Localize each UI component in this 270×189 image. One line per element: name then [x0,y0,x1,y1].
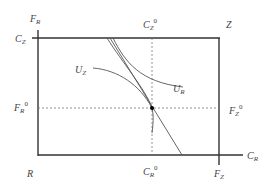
label-f-z-zero: FZ0 [228,103,243,118]
label-sub: Z [220,173,224,181]
budget-line [110,38,182,155]
label-f-z-axis: FZ [213,168,224,181]
label-c-r-axis: CR [247,150,259,163]
label-c-r-zero: CR0 [143,164,158,179]
label-sup: 0 [154,17,158,25]
label-sup: 0 [24,100,28,108]
label-sub: R [35,18,41,26]
label-r-origin: R [26,168,33,179]
label-c-z-axis: CZ [15,33,26,46]
label-sub: Z [150,24,154,32]
label-sub: R [19,107,25,115]
label-z-origin: Z [226,19,232,30]
label-sub: Z [235,110,239,118]
edgeworth-box-diagram: FR CZ CZ0 Z UZ UR FR0 FZ0 R CR0 FZ CR [0,0,270,189]
label-f-r-axis: FR [29,13,41,26]
label-sup: 0 [239,103,243,111]
label-c-z-zero: CZ0 [143,17,158,32]
equilibrium-point [150,106,154,110]
label-u-z: UZ [75,64,86,77]
label-sub: Z [82,69,86,77]
label-f-r-zero: FR0 [13,100,28,115]
label-sub: R [179,88,185,96]
contract-curve [107,38,153,133]
label-sub: R [149,171,155,179]
label-sup: 0 [154,164,158,172]
label-u-r: UR [173,83,185,96]
label-sub: R [253,155,259,163]
label-sub: Z [22,38,26,46]
